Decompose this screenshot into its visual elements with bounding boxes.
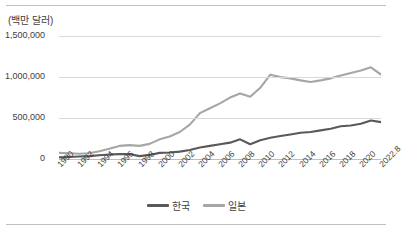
y-tick-label: 500,000 xyxy=(0,112,45,122)
legend-item[interactable]: 일본 xyxy=(203,198,246,213)
legend-swatch xyxy=(203,204,225,207)
figure-title xyxy=(0,0,392,4)
gridline-1000000 xyxy=(59,77,381,78)
chart-lines-svg xyxy=(59,28,381,159)
x-axis-tick-labels: 1990199219941996199820002002200420062008… xyxy=(59,160,381,202)
y-axis-unit-label: (백만 달러) xyxy=(8,12,53,27)
plot-area-wrapper: 0500,0001,000,0001,500,000 xyxy=(0,28,392,164)
y-tick-label: 1,500,000 xyxy=(0,30,45,40)
legend-item[interactable]: 한국 xyxy=(147,198,190,213)
gridline-1500000 xyxy=(59,36,381,37)
y-tick-label: 1,000,000 xyxy=(0,71,45,81)
plot-area: 0500,0001,000,0001,500,000 xyxy=(59,28,381,159)
legend-label: 한국 xyxy=(172,198,190,213)
figure-bottom-rule xyxy=(6,224,386,225)
y-tick-label: 0 xyxy=(0,153,45,163)
gridline-500000 xyxy=(59,118,381,119)
legend-swatch xyxy=(147,204,169,207)
line-series-japan xyxy=(59,67,381,153)
chart-legend: 한국일본 xyxy=(0,198,392,212)
figure-top-rule xyxy=(6,5,386,6)
legend-label: 일본 xyxy=(228,198,246,213)
